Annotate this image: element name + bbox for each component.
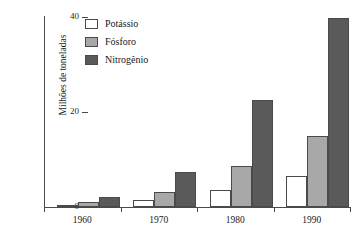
x-axis-tick-label: 1980 (226, 214, 245, 227)
y-axis-tick: 0 (82, 207, 88, 208)
x-axis-tick-label: 1960 (73, 214, 92, 227)
legend-item-label: Fósforo (105, 35, 136, 48)
bar (231, 166, 252, 207)
x-axis-tick-label: 1990 (302, 214, 321, 227)
bar (286, 176, 307, 207)
bar-chart: Milhões de toneladas 02040 1960197019801… (0, 0, 358, 244)
bar (252, 100, 273, 207)
bar-group (197, 17, 274, 207)
chart-legend: PotássioFósforoNitrogênio (85, 16, 148, 70)
bar (175, 172, 196, 207)
legend-swatch-icon (85, 37, 98, 47)
bar (78, 202, 99, 207)
x-axis-tick (44, 207, 45, 212)
x-axis-tick (197, 207, 198, 212)
legend-item: Fósforo (85, 34, 148, 49)
bar (133, 200, 154, 207)
legend-item: Nitrogênio (85, 52, 148, 67)
legend-item: Potássio (85, 16, 148, 31)
legend-swatch-icon (85, 19, 98, 29)
bar (99, 197, 120, 207)
bar (154, 192, 175, 207)
legend-swatch-icon (85, 55, 98, 65)
bar (210, 190, 231, 207)
bar (328, 18, 349, 207)
x-axis-tick (350, 207, 351, 212)
x-axis-tick (121, 207, 122, 212)
bar (307, 136, 328, 207)
x-axis-tick (274, 207, 275, 212)
bar-group (274, 17, 351, 207)
x-axis-tick-label: 1970 (149, 214, 168, 227)
bar (57, 205, 78, 207)
legend-item-label: Potássio (105, 17, 138, 30)
legend-item-label: Nitrogênio (105, 53, 148, 66)
